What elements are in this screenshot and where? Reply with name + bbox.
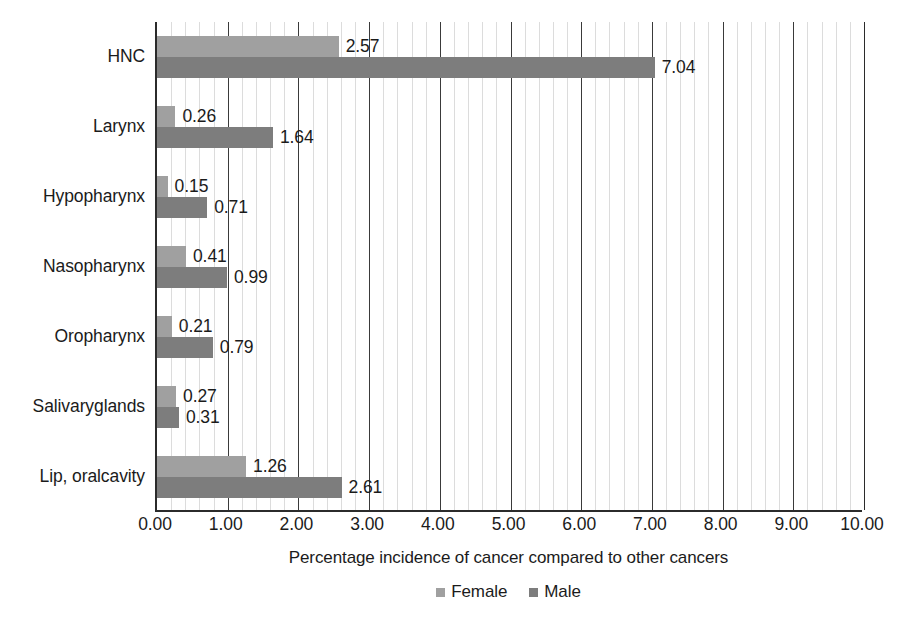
bar-female [157, 316, 172, 337]
bar-male [157, 407, 179, 428]
bar-female [157, 106, 175, 127]
bar-value-label-male: 2.61 [349, 477, 383, 498]
bar-male [157, 267, 227, 288]
bar-value-label-male: 0.79 [220, 337, 254, 358]
bar-group: 2.577.04 [157, 36, 862, 78]
y-axis-label-larynx: Larynx [0, 116, 145, 137]
bar-group: 0.410.99 [157, 246, 862, 288]
bar-group: 0.261.64 [157, 106, 862, 148]
bar-chart: HNCLarynxHypopharynxNasopharynxOropharyn… [0, 0, 915, 630]
bar-group: 0.270.31 [157, 386, 862, 428]
bar-group: 0.150.71 [157, 176, 862, 218]
legend-swatch-female-icon [436, 588, 445, 597]
y-axis-label-hypopharynx: Hypopharynx [0, 186, 145, 207]
x-axis-title: Percentage incidence of cancer compared … [155, 548, 862, 568]
x-axis-tick-6.00: 6.00 [562, 514, 596, 535]
bar-value-label-male: 0.99 [234, 267, 268, 288]
bar-female [157, 176, 168, 197]
y-axis-label-nasopharynx: Nasopharynx [0, 256, 145, 277]
x-axis-tick-9.00: 9.00 [774, 514, 808, 535]
x-axis-tick-1.00: 1.00 [209, 514, 243, 535]
bar-group: 1.262.61 [157, 456, 862, 498]
x-axis-tick-4.00: 4.00 [421, 514, 455, 535]
x-axis-tick-0.00: 0.00 [138, 514, 172, 535]
bar-value-label-female: 0.41 [193, 246, 227, 267]
chart-legend: FemaleMale [155, 582, 862, 602]
legend-item-female[interactable]: Female [436, 582, 507, 602]
bar-value-label-female: 0.21 [179, 316, 213, 337]
bar-value-label-male: 7.04 [662, 57, 696, 78]
y-axis-category-labels: HNCLarynxHypopharynxNasopharynxOropharyn… [0, 22, 155, 512]
bar-female [157, 386, 176, 407]
bar-value-label-male: 0.31 [186, 407, 220, 428]
y-axis-label-salivaryglands: Salivaryglands [0, 396, 145, 417]
plot-area: 2.577.040.261.640.150.710.410.990.210.79… [155, 22, 862, 512]
bar-female [157, 246, 186, 267]
x-axis-tick-labels: 0.001.002.003.004.005.006.007.008.009.00… [155, 514, 862, 540]
bar-female [157, 456, 246, 477]
legend-swatch-male-icon [529, 588, 538, 597]
x-axis-tick-3.00: 3.00 [350, 514, 384, 535]
x-axis-tick-7.00: 7.00 [633, 514, 667, 535]
bar-group: 0.210.79 [157, 316, 862, 358]
bar-value-label-female: 0.15 [175, 176, 209, 197]
x-axis-tick-2.00: 2.00 [280, 514, 314, 535]
bar-male [157, 127, 273, 148]
bar-female [157, 36, 339, 57]
bar-male [157, 477, 342, 498]
bar-value-label-female: 1.26 [253, 456, 287, 477]
y-axis-label-oropharynx: Oropharynx [0, 326, 145, 347]
bar-male [157, 197, 207, 218]
legend-label: Female [451, 582, 507, 602]
bar-value-label-female: 2.57 [346, 36, 380, 57]
bar-male [157, 337, 213, 358]
bar-male [157, 57, 655, 78]
bar-value-label-male: 0.71 [214, 197, 248, 218]
bar-value-label-male: 1.64 [280, 127, 314, 148]
x-axis-tick-10.00: 10.00 [840, 514, 883, 535]
legend-label: Male [544, 582, 580, 602]
gridline-major-10.00 [864, 22, 865, 510]
x-axis-tick-5.00: 5.00 [492, 514, 526, 535]
bar-value-label-female: 0.26 [182, 106, 216, 127]
bar-value-label-female: 0.27 [183, 386, 217, 407]
legend-item-male[interactable]: Male [529, 582, 580, 602]
y-axis-label-hnc: HNC [0, 46, 145, 67]
y-axis-label-lip-oralcavity: Lip, oralcavity [0, 466, 145, 487]
x-axis-tick-8.00: 8.00 [704, 514, 738, 535]
